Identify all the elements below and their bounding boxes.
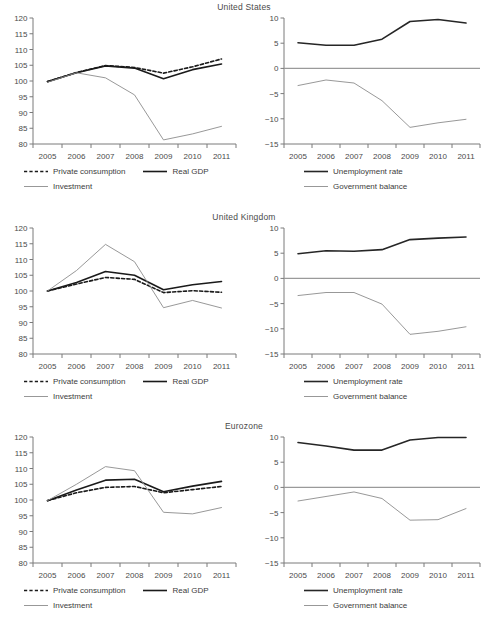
svg-text:2009: 2009 xyxy=(401,152,419,161)
legend-label: Private consumption xyxy=(53,167,125,176)
svg-text:2006: 2006 xyxy=(317,361,335,370)
legend-label: Investment xyxy=(53,601,92,610)
plot-area: −15−10−505102005200620072008200920102011 xyxy=(246,431,486,591)
legend-item[interactable]: Private consumption xyxy=(24,167,125,176)
chart-row-united-kingdom: United Kingdom 8085909510010511011512020… xyxy=(0,210,488,420)
panel-index-eurozone: 8085909510010511011512020052006200720082… xyxy=(2,431,244,591)
svg-text:110: 110 xyxy=(15,255,28,264)
svg-text:2011: 2011 xyxy=(457,152,475,161)
svg-text:2010: 2010 xyxy=(184,571,202,580)
series-line xyxy=(298,20,466,46)
legend-row: Unemployment rate xyxy=(304,374,407,389)
legend-swatch-icon xyxy=(24,167,48,176)
svg-text:−15: −15 xyxy=(265,559,279,568)
legend-item[interactable]: Government balance xyxy=(304,392,407,401)
legend-swatch-icon xyxy=(143,586,167,595)
svg-text:90: 90 xyxy=(19,318,28,327)
svg-text:0: 0 xyxy=(274,64,279,73)
legend-item[interactable]: Private consumption xyxy=(24,586,125,595)
series-line xyxy=(298,80,466,127)
svg-text:95: 95 xyxy=(19,512,28,521)
legend-item[interactable]: Unemployment rate xyxy=(304,586,403,595)
svg-text:2006: 2006 xyxy=(68,361,86,370)
legend-swatch-icon xyxy=(304,586,328,595)
svg-text:80: 80 xyxy=(19,140,28,149)
chart-row-united-states: United States 80859095100105110115120200… xyxy=(0,0,488,210)
svg-text:105: 105 xyxy=(14,271,28,280)
panel-rates-united-kingdom: −15−10−505102005200620072008200920102011… xyxy=(246,222,486,382)
legend-item[interactable]: Investment xyxy=(24,182,92,191)
svg-text:2006: 2006 xyxy=(68,571,86,580)
plot-area: −15−10−505102005200620072008200920102011 xyxy=(246,12,486,172)
svg-text:100: 100 xyxy=(14,287,28,296)
svg-text:115: 115 xyxy=(15,30,28,39)
svg-text:2009: 2009 xyxy=(401,361,419,370)
svg-text:0: 0 xyxy=(274,274,279,283)
svg-text:90: 90 xyxy=(19,109,28,118)
legend-rates: Unemployment rateGovernment balance xyxy=(304,374,407,404)
legend-item[interactable]: Investment xyxy=(24,601,92,610)
legend-label: Government balance xyxy=(333,601,407,610)
legend-swatch-icon xyxy=(24,586,48,595)
legend-item[interactable]: Real GDP xyxy=(143,377,208,386)
legend-label: Real GDP xyxy=(172,167,208,176)
svg-text:−15: −15 xyxy=(265,140,279,149)
svg-text:2005: 2005 xyxy=(289,152,307,161)
svg-text:95: 95 xyxy=(19,302,28,311)
series-line xyxy=(48,479,222,500)
svg-text:95: 95 xyxy=(19,93,28,102)
legend-swatch-icon xyxy=(24,601,48,610)
legend-label: Investment xyxy=(53,392,92,401)
svg-text:2010: 2010 xyxy=(184,361,202,370)
series-line xyxy=(298,292,466,334)
legend-label: Private consumption xyxy=(53,586,125,595)
panel-rates-eurozone: −15−10−505102005200620072008200920102011… xyxy=(246,431,486,591)
svg-text:2009: 2009 xyxy=(155,571,173,580)
chart-row-eurozone: Eurozone 8085909510010511011512020052006… xyxy=(0,419,488,629)
legend-item[interactable]: Government balance xyxy=(304,182,407,191)
svg-text:2006: 2006 xyxy=(68,152,86,161)
legend-label: Government balance xyxy=(333,182,407,191)
svg-text:120: 120 xyxy=(14,433,28,442)
svg-text:80: 80 xyxy=(19,559,28,568)
series-line xyxy=(298,237,466,254)
svg-text:2005: 2005 xyxy=(39,571,57,580)
svg-text:0: 0 xyxy=(274,484,279,493)
svg-text:−15: −15 xyxy=(265,350,279,359)
legend-swatch-icon xyxy=(24,182,48,191)
legend-item[interactable]: Private consumption xyxy=(24,377,125,386)
svg-text:2005: 2005 xyxy=(289,571,307,580)
svg-text:10: 10 xyxy=(270,224,279,233)
legend-item[interactable]: Real GDP xyxy=(143,586,208,595)
svg-text:85: 85 xyxy=(19,124,28,133)
svg-text:2005: 2005 xyxy=(39,361,57,370)
legend-index: Private consumptionReal GDPInvestment xyxy=(24,583,209,613)
legend-label: Real GDP xyxy=(172,586,208,595)
legend-index: Private consumptionReal GDPInvestment xyxy=(24,374,209,404)
svg-text:2008: 2008 xyxy=(126,152,144,161)
legend-item[interactable]: Unemployment rate xyxy=(304,377,403,386)
svg-text:110: 110 xyxy=(15,465,28,474)
svg-text:5: 5 xyxy=(274,458,279,467)
legend-item[interactable]: Real GDP xyxy=(143,167,208,176)
svg-text:90: 90 xyxy=(19,528,28,537)
legend-item[interactable]: Government balance xyxy=(304,601,407,610)
svg-text:2007: 2007 xyxy=(97,152,115,161)
svg-text:−5: −5 xyxy=(269,90,279,99)
plot-area: 8085909510010511011512020052006200720082… xyxy=(2,431,244,591)
svg-text:120: 120 xyxy=(14,14,28,23)
svg-text:115: 115 xyxy=(15,239,28,248)
panel-rates-united-states: −15−10−505102005200620072008200920102011… xyxy=(246,12,486,172)
row-title: United Kingdom xyxy=(0,212,488,222)
svg-text:105: 105 xyxy=(14,480,28,489)
legend-swatch-icon xyxy=(304,392,328,401)
legend-item[interactable]: Unemployment rate xyxy=(304,167,403,176)
svg-text:80: 80 xyxy=(19,350,28,359)
svg-text:2005: 2005 xyxy=(289,361,307,370)
svg-text:−10: −10 xyxy=(265,324,279,333)
legend-swatch-icon xyxy=(143,167,167,176)
svg-text:120: 120 xyxy=(14,224,28,233)
legend-item[interactable]: Investment xyxy=(24,392,92,401)
legend-row: Investment xyxy=(24,179,209,194)
svg-text:5: 5 xyxy=(274,39,279,48)
